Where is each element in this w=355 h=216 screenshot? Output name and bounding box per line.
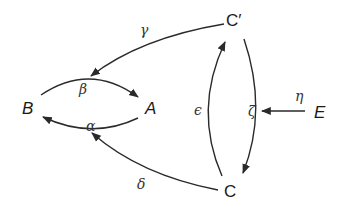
edge-label-beta: β — [79, 82, 87, 96]
edge-delta-arrow — [92, 133, 218, 190]
edge-label-delta: δ — [137, 177, 145, 191]
edges-layer — [0, 0, 355, 216]
reaction-diagram: B A C′ C E γ β α δ ϵ ζ η — [0, 0, 355, 216]
edge-label-alpha: α — [86, 119, 95, 133]
edge-label-eta: η — [295, 89, 303, 103]
edge-epsilon-arrow — [208, 42, 225, 176]
edge-label-gamma: γ — [140, 23, 148, 37]
edge-label-zeta: ζ — [248, 104, 256, 118]
node-e: E — [314, 104, 325, 121]
node-b: B — [22, 100, 33, 117]
node-a: A — [145, 100, 156, 117]
node-c-prime: C′ — [226, 12, 241, 29]
edge-beta-arrow — [41, 79, 138, 97]
node-c: C — [224, 183, 236, 200]
edge-gamma-arrow — [91, 24, 224, 76]
edge-label-epsilon: ϵ — [194, 103, 202, 117]
